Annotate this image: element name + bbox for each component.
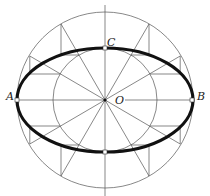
- point-d: [103, 150, 107, 154]
- ellipse-construction-diagram: A B C O: [0, 0, 210, 196]
- point-a: [15, 98, 19, 102]
- label-o: O: [115, 94, 124, 107]
- point-b: [190, 98, 194, 102]
- label-a: A: [5, 90, 14, 103]
- center-point-o: [103, 98, 106, 101]
- label-b: B: [196, 90, 205, 103]
- label-c: C: [107, 36, 116, 49]
